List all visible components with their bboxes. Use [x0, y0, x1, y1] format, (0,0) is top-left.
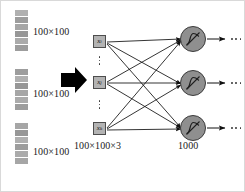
stack-cell: [15, 90, 28, 96]
sigmoid-icon: [181, 116, 205, 140]
sigmoid-icon: [181, 27, 205, 51]
stack-cell: [15, 76, 28, 82]
stack-cell: [15, 31, 28, 37]
stack-cell: [15, 151, 28, 157]
stack-cell: [15, 45, 28, 51]
hidden-neuron-2: [180, 70, 206, 96]
input-image-stack-2: [15, 69, 28, 110]
input-node-xj: xj: [93, 76, 106, 89]
stack-cell: [15, 158, 28, 164]
sigmoid-icon: [181, 71, 205, 95]
neural-network-diagram: 100×100 100×100 100×100: [0, 0, 245, 192]
hidden-neuron-1: [180, 26, 206, 52]
output-ellipsis-2: [231, 82, 241, 84]
input-node-xk: xk: [93, 122, 106, 135]
vertical-ellipsis-bottom: [93, 98, 106, 111]
input-node-xi-subscript: i: [100, 39, 101, 44]
output-ellipsis-1: [231, 38, 241, 40]
stack-cell: [15, 10, 28, 16]
input-image-stack-3: [15, 123, 28, 164]
stack-cell: [15, 69, 28, 75]
stack-cell: [15, 104, 28, 110]
hidden-layer-size-label: 1000: [178, 140, 198, 151]
input-stack-1-label: 100×100: [33, 26, 69, 37]
input-node-xk-subscript: k: [100, 126, 102, 131]
input-stack-3-label: 100×100: [33, 146, 69, 157]
hidden-neuron-3: [180, 115, 206, 141]
input-layer-dimension-label: 100×100×3: [74, 140, 121, 151]
stack-cell: [15, 83, 28, 89]
vertical-ellipsis-top: [93, 54, 106, 67]
input-image-stack-1: [15, 10, 28, 51]
input-node-xi: xi: [93, 35, 106, 48]
stack-cell: [15, 123, 28, 129]
stack-cell: [15, 137, 28, 143]
input-stack-2-label: 100×100: [33, 88, 69, 99]
output-ellipsis-3: [231, 127, 241, 129]
input-node-xj-subscript: j: [100, 80, 101, 85]
stack-cell: [15, 97, 28, 103]
stack-cell: [15, 24, 28, 30]
stack-cell: [15, 130, 28, 136]
stack-cell: [15, 17, 28, 23]
stack-cell: [15, 144, 28, 150]
stack-cell: [15, 38, 28, 44]
